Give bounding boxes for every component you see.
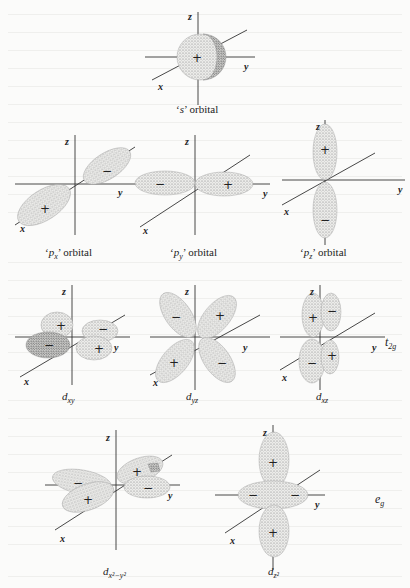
svg-text:z: z <box>315 121 320 132</box>
svg-text:+: + <box>83 493 93 507</box>
svg-text:−: − <box>307 356 317 370</box>
svg-text:x: x <box>23 376 29 387</box>
caption-pz-orbital: ‘pz’ orbital <box>300 246 347 261</box>
svg-text:+: + <box>40 202 50 216</box>
svg-text:x: x <box>283 206 289 217</box>
svg-text:+: + <box>320 143 330 157</box>
svg-text:−: − <box>155 177 165 191</box>
svg-text:−: − <box>73 476 83 490</box>
svg-text:+: + <box>308 311 318 325</box>
svg-text:+: + <box>327 349 337 363</box>
svg-text:+: + <box>215 309 225 323</box>
svg-text:+: + <box>169 356 179 370</box>
svg-text:+: + <box>223 178 233 192</box>
dxz-orbital-diagram: + − − + z y x <box>275 285 400 390</box>
svg-text:+: + <box>132 465 142 479</box>
svg-text:−: − <box>44 338 54 352</box>
svg-text:+: + <box>268 526 278 540</box>
s-orbital-diagram: + z y x <box>140 10 280 105</box>
svg-text:z: z <box>187 11 192 22</box>
py-orbital-diagram: − + z y x <box>135 135 275 235</box>
svg-text:−: − <box>98 322 108 336</box>
svg-text:z: z <box>61 286 66 297</box>
svg-text:y: y <box>117 187 123 198</box>
svg-text:+: + <box>56 319 66 333</box>
plus-sign: + <box>192 51 202 65</box>
svg-text:x: x <box>142 225 148 236</box>
svg-text:y: y <box>371 342 377 353</box>
svg-text:−: − <box>171 310 181 324</box>
dx2-y2-orbital-diagram: − + + − z y x <box>40 430 190 550</box>
caption-dx2-y2: dx²−y² <box>103 565 126 580</box>
svg-text:x: x <box>157 81 163 92</box>
caption-dxz: dxz <box>316 390 328 405</box>
svg-text:y: y <box>262 188 268 199</box>
svg-text:z: z <box>105 432 110 443</box>
eg-group-label: eg <box>375 492 384 508</box>
dz2-orbital-diagram: + + − − z y x <box>210 425 335 570</box>
svg-text:y: y <box>113 342 119 353</box>
svg-text:z: z <box>184 136 189 147</box>
svg-text:−: − <box>320 213 330 227</box>
svg-text:y: y <box>314 499 320 510</box>
caption-s-orbital: ‘s’ orbital <box>176 103 218 115</box>
dyz-orbital-diagram: − + + − z y x <box>145 285 275 390</box>
caption-dz2: dz² <box>268 565 279 580</box>
svg-text:x: x <box>281 372 287 383</box>
svg-text:+: + <box>94 342 104 356</box>
caption-px-orbital: ‘px’ orbital <box>45 246 92 261</box>
caption-dxy: dxy <box>62 390 75 405</box>
svg-text:−: − <box>327 304 337 318</box>
svg-text:z: z <box>262 427 267 438</box>
svg-text:y: y <box>242 342 248 353</box>
svg-text:z: z <box>184 286 189 297</box>
t2g-group-label: t2g <box>385 335 396 351</box>
svg-text:z: z <box>309 286 314 297</box>
svg-text:y: y <box>243 61 249 72</box>
svg-text:−: − <box>217 356 227 370</box>
svg-text:y: y <box>167 490 173 501</box>
svg-text:x: x <box>152 377 158 388</box>
caption-py-orbital: ‘py’ orbital <box>170 246 217 261</box>
px-orbital-diagram: + − z y x <box>10 135 140 235</box>
svg-text:−: − <box>290 488 300 502</box>
svg-text:x: x <box>229 535 235 546</box>
pz-orbital-diagram: + − z y x <box>280 120 410 245</box>
caption-dyz: dyz <box>186 390 198 405</box>
svg-text:−: − <box>102 164 112 178</box>
svg-text:x: x <box>19 223 25 234</box>
svg-text:y: y <box>397 184 403 195</box>
svg-text:−: − <box>248 488 258 502</box>
svg-text:−: − <box>143 481 153 495</box>
svg-text:x: x <box>59 533 65 544</box>
dxy-orbital-diagram: + − − + z y x <box>10 285 135 385</box>
svg-text:z: z <box>64 136 69 147</box>
svg-text:+: + <box>268 456 278 470</box>
